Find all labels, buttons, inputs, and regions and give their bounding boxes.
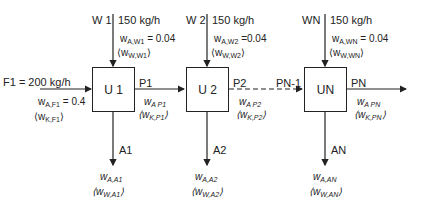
water-wA-n: wA,WN = 0.04 [332, 34, 388, 45]
water-flow-2: 150 kg/h [212, 15, 254, 26]
unit-label: U 2 [198, 83, 217, 97]
unit-label: UN [317, 83, 334, 97]
water-wA-1: wA,W1 = 0.04 [120, 34, 175, 45]
feed-label: F1 = 200 kg/h [3, 77, 71, 88]
product-wK-n: ⟨wK,PN⟩ [354, 110, 386, 121]
unit-box-n: UN [304, 67, 347, 112]
feed-wA: wA,F1 = 0.4 [38, 97, 85, 108]
feed-wK: ⟨wK,F1⟩ [34, 112, 64, 123]
raffinate-label-n: AN [331, 145, 346, 156]
raffinate-wW-n: ⟨wW,AN⟩ [309, 187, 342, 198]
unit-box-2: U 2 [186, 67, 229, 112]
raffinate-wA-2: wA,A2 [195, 172, 217, 183]
water-wA-2: wA,W2 =0.04 [214, 34, 266, 45]
water-label-n: WN [302, 15, 320, 26]
input-label-n: PN-1 [276, 78, 301, 89]
raffinate-wA-1: wA,A1 [100, 172, 122, 183]
product-label-n: PN [351, 78, 366, 89]
water-flow-n: 150 kg/h [330, 15, 372, 26]
unit-box-1: U 1 [92, 67, 135, 112]
water-flow-1: 150 kg/h [118, 15, 160, 26]
raffinate-label-1: A1 [119, 145, 132, 156]
raffinate-wW-2: ⟨wW,A2⟩ [191, 187, 223, 198]
product-wA-1: wA P1 [144, 97, 166, 108]
product-wA-2: wA P2 [239, 97, 261, 108]
product-label-2: P2 [233, 78, 246, 89]
water-label-2: W 2 [186, 15, 206, 26]
product-label-1: P1 [139, 78, 152, 89]
raffinate-wA-n: wA,AN [313, 172, 337, 183]
water-wW-n: ⟨wW,WN⟩ [329, 48, 364, 59]
unit-label: U 1 [104, 83, 123, 97]
water-label-1: W 1 [92, 15, 112, 26]
product-wK-1: ⟨wK,P1⟩ [138, 110, 168, 121]
water-wW-1: ⟨wW,W1⟩ [117, 48, 151, 59]
water-wW-2: ⟨wW,W2⟩ [211, 48, 245, 59]
product-wK-2: ⟨wK,P2⟩ [236, 110, 266, 121]
product-wA-n: wA PN [357, 97, 380, 108]
raffinate-label-2: A2 [213, 145, 226, 156]
raffinate-wW-1: ⟨wW,A1⟩ [92, 187, 124, 198]
